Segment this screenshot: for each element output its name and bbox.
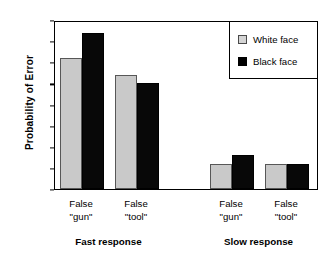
legend-swatch-white-face-icon: [238, 35, 247, 44]
legend-swatch-black-face-icon: [238, 57, 247, 66]
category-label-line1: False: [124, 198, 147, 209]
category-label-line2: "tool": [255, 211, 317, 224]
category-label-line2: "gun": [50, 211, 112, 224]
x-axis-category-label: False"tool": [255, 198, 317, 223]
bar: [265, 164, 287, 189]
x-axis-category-label: False"tool": [105, 198, 167, 223]
category-label-line2: "tool": [105, 211, 167, 224]
legend: White face Black face: [229, 22, 317, 79]
bar-chart: Probability of Error 0.000.050.100.150.2…: [0, 0, 329, 262]
legend-label-black-face: Black face: [253, 56, 297, 67]
x-axis-group-label: Fast response: [49, 236, 169, 247]
category-label-line2: "gun": [200, 211, 262, 224]
y-axis-title: Probability of Error: [24, 23, 35, 183]
x-axis-category-label: False"gun": [50, 198, 112, 223]
category-label-line1: False: [219, 198, 242, 209]
bar: [232, 155, 254, 189]
category-label-line1: False: [274, 198, 297, 209]
x-axis-group-label: Slow response: [199, 236, 319, 247]
x-axis-category-label: False"gun": [200, 198, 262, 223]
legend-label-white-face: White face: [253, 34, 298, 45]
legend-item-black-face: Black face: [238, 50, 317, 72]
bar: [82, 33, 104, 189]
bar: [287, 164, 309, 189]
legend-item-white-face: White face: [238, 28, 317, 50]
bar: [137, 83, 159, 189]
bar: [60, 58, 82, 189]
bar: [115, 75, 137, 189]
category-label-line1: False: [69, 198, 92, 209]
bar: [210, 164, 232, 189]
